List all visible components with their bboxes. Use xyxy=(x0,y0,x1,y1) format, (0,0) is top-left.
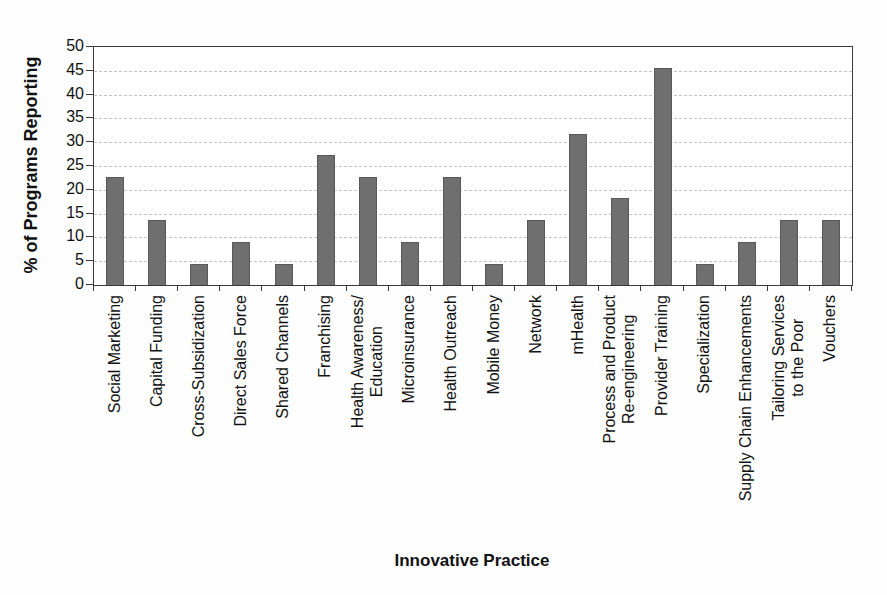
x-category-label: Shared Channels xyxy=(273,295,292,419)
y-axis-tick xyxy=(86,260,93,261)
bar xyxy=(654,68,672,285)
x-axis-tick xyxy=(472,285,473,291)
x-axis-tick xyxy=(767,285,768,291)
bar xyxy=(401,242,419,285)
y-axis-tick xyxy=(86,117,93,118)
x-axis-tick xyxy=(304,285,305,291)
x-axis-tick xyxy=(514,285,515,291)
y-axis-tick xyxy=(86,94,93,95)
y-axis-tick xyxy=(86,213,93,214)
y-tick-label: 10 xyxy=(48,228,84,244)
x-category-label: Health Awareness/ Education xyxy=(348,295,386,428)
bar xyxy=(485,264,503,285)
bar xyxy=(275,264,293,285)
y-tick-label: 50 xyxy=(48,38,84,54)
x-axis-tick xyxy=(598,285,599,291)
x-axis-tick xyxy=(556,285,557,291)
x-axis-tick xyxy=(851,285,852,291)
bar xyxy=(359,177,377,285)
y-tick-label: 25 xyxy=(48,157,84,173)
y-tick-label: 20 xyxy=(48,181,84,197)
y-axis-tick xyxy=(86,236,93,237)
y-axis-tick xyxy=(86,46,93,47)
x-category-label: Health Outreach xyxy=(441,295,460,412)
x-category-label: Direct Sales Force xyxy=(231,295,250,427)
gridline xyxy=(94,214,852,215)
y-tick-label: 0 xyxy=(48,276,84,292)
x-axis-tick xyxy=(219,285,220,291)
plot-area xyxy=(93,46,853,286)
bar xyxy=(780,220,798,285)
x-axis-tick xyxy=(640,285,641,291)
x-category-label: Process and Product Re-engineering xyxy=(600,295,638,444)
x-category-label: Microinsurance xyxy=(399,295,418,403)
bar xyxy=(611,198,629,285)
bar xyxy=(148,220,166,285)
x-axis-tick xyxy=(809,285,810,291)
x-category-label: Franchising xyxy=(315,295,334,378)
y-tick-label: 30 xyxy=(48,133,84,149)
x-axis-tick xyxy=(346,285,347,291)
bar xyxy=(527,220,545,285)
bar xyxy=(190,264,208,285)
bar xyxy=(317,155,335,285)
y-axis-tick xyxy=(86,70,93,71)
x-axis-tick xyxy=(430,285,431,291)
y-axis-tick xyxy=(86,189,93,190)
gridline xyxy=(94,95,852,96)
x-category-label: Network xyxy=(526,295,545,354)
y-tick-label: 15 xyxy=(48,205,84,221)
gridline xyxy=(94,237,852,238)
bar xyxy=(696,264,714,285)
y-axis-tick xyxy=(86,141,93,142)
gridline xyxy=(94,190,852,191)
bar xyxy=(232,242,250,285)
gridline xyxy=(94,166,852,167)
x-category-label: mHealth xyxy=(568,295,587,355)
x-axis-title: Innovative Practice xyxy=(93,551,851,571)
y-tick-label: 40 xyxy=(48,86,84,102)
y-tick-label: 5 xyxy=(48,252,84,268)
y-tick-label: 35 xyxy=(48,109,84,125)
x-axis-tick xyxy=(177,285,178,291)
x-category-label: Cross-Subsidization xyxy=(189,295,208,437)
x-axis-tick xyxy=(683,285,684,291)
x-axis-tick xyxy=(725,285,726,291)
bar xyxy=(738,242,756,285)
x-category-label: Supply Chain Enhancements xyxy=(736,295,755,501)
y-axis-title: % of Programs Reporting xyxy=(21,56,42,273)
y-axis-tick xyxy=(86,165,93,166)
x-category-label: Capital Funding xyxy=(147,295,166,407)
y-axis-tick xyxy=(86,284,93,285)
x-category-label: Tailoring Services to the Poor xyxy=(769,295,807,420)
bar-chart-figure: % of Programs Reporting Innovative Pract… xyxy=(0,0,887,595)
x-axis-tick xyxy=(135,285,136,291)
x-axis-tick xyxy=(261,285,262,291)
x-category-label: Provider Training xyxy=(652,295,671,416)
bar xyxy=(569,134,587,285)
x-axis-tick xyxy=(93,285,94,291)
x-category-label: Social Marketing xyxy=(105,295,124,413)
bar xyxy=(106,177,124,285)
gridline xyxy=(94,71,852,72)
x-category-label: Vouchers xyxy=(820,295,839,362)
bar xyxy=(443,177,461,285)
x-category-label: Mobile Money xyxy=(484,295,503,395)
gridline xyxy=(94,142,852,143)
y-tick-label: 45 xyxy=(48,62,84,78)
gridline xyxy=(94,118,852,119)
bar xyxy=(822,220,840,285)
x-axis-tick xyxy=(388,285,389,291)
x-category-label: Specialization xyxy=(694,295,713,394)
